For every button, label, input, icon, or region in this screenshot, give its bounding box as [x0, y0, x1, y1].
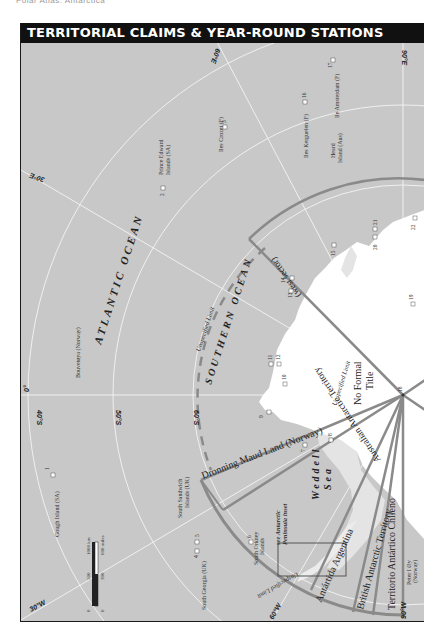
lon-0-label: 0° — [23, 385, 30, 392]
scale-mi-bar-black — [95, 574, 98, 606]
svg-text:19: 19 — [408, 294, 414, 300]
svg-text:11: 11 — [267, 354, 273, 360]
scale-mi-300: 300 — [100, 572, 105, 580]
antarctica-territorial-map: ATLANTIC OCEAN SOUTHERN OCEAN Weddell Se… — [21, 23, 424, 622]
iles-kerguelen-label: Iles Kerguelen (F) — [303, 114, 310, 158]
no-formal-title-label-1: No Formal — [352, 361, 363, 405]
no-formal-title-label-2: Title — [364, 371, 375, 390]
svg-text:13: 13 — [287, 292, 293, 298]
map-title: TERRITORIAL CLAIMS & YEAR-ROUND STATIONS — [21, 23, 424, 43]
inset-note-line1: see Antarctic — [274, 510, 281, 546]
svg-text:3: 3 — [221, 120, 227, 123]
svg-text:18: 18 — [397, 386, 403, 392]
svg-text:21: 21 — [372, 219, 378, 225]
lat-50s-label: 50°S — [115, 410, 122, 426]
south-georgia-label: South Georgia (UK) — [201, 561, 208, 610]
svg-text:22: 22 — [410, 224, 416, 230]
svg-text:8: 8 — [327, 433, 333, 436]
south-orkney-label-2: Islands — [259, 537, 265, 555]
svg-text:14: 14 — [280, 277, 286, 283]
page-running-header: Polar Atlas: Antarctica — [16, 0, 105, 5]
weddell-label: Weddell — [310, 446, 321, 500]
svg-text:16: 16 — [301, 92, 307, 98]
prince-edward-label-1: Prince Edward — [158, 140, 164, 176]
bouvetoya-label: Bouvetøya (Norway) — [75, 327, 82, 378]
prince-edward-label-2: Islands (SA) — [165, 145, 172, 175]
lon-90w-label: 90°W — [400, 600, 407, 619]
scale-mi-600: 600 miles — [100, 535, 105, 555]
south-sandwich-label-2: Islands (UK) — [184, 477, 191, 508]
inset-note-line2: Peninsula inset — [281, 503, 288, 545]
lat-40s-label: 40°S — [36, 409, 43, 426]
ile-amsterdam-label: Ile Amsterdam (F) — [334, 74, 341, 118]
svg-text:9: 9 — [258, 415, 264, 418]
svg-text:20: 20 — [372, 244, 378, 250]
station-21[interactable]: 21 — [372, 219, 378, 231]
lon-90e-label: 90°E — [401, 50, 408, 66]
svg-text:12: 12 — [275, 354, 281, 360]
peter-i-oy-label-2: (Norway) — [412, 560, 419, 583]
scale-km-1000: 1000 km — [86, 537, 91, 555]
svg-text:6: 6 — [246, 535, 252, 538]
south-sandwich-label-1: South Sandwich — [177, 479, 183, 518]
scale-km-500: 500 — [86, 572, 91, 580]
svg-text:5: 5 — [194, 534, 200, 537]
heard-island-label-2: Island (Aus) — [337, 133, 344, 163]
gough-island-label: Gough Island (SA) — [54, 491, 61, 537]
lat-60s-label: 60°S — [193, 410, 200, 426]
territorio-antartico-chileno-label: Territorio Antártico Chileno — [386, 498, 397, 610]
svg-text:2: 2 — [159, 193, 165, 196]
svg-text:17: 17 — [327, 62, 333, 68]
svg-text:4: 4 — [193, 555, 199, 558]
map-frame: TERRITORIAL CLAIMS & YEAR-ROUND STATIONS — [20, 23, 424, 622]
svg-text:10: 10 — [281, 374, 287, 380]
heard-island-label-1: Heard — [330, 143, 336, 158]
sea-label: Sea — [322, 466, 333, 490]
scale-km-bar-black — [92, 542, 95, 606]
svg-text:1: 1 — [44, 467, 50, 470]
svg-text:15: 15 — [330, 250, 336, 256]
svg-text:7: 7 — [300, 449, 306, 452]
